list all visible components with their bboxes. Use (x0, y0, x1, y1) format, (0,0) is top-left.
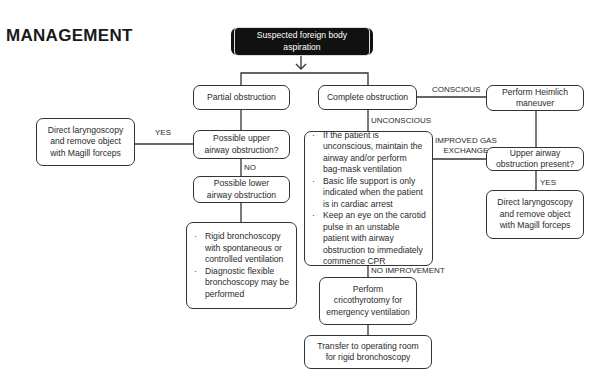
unconscious-item: Basic life support is only indicated whe… (323, 176, 426, 211)
lower-airway-node: Possible lowerairway obstruction (193, 176, 290, 203)
rigid-item: Diagnostic flexible bronchoscopy may be … (205, 266, 290, 301)
label-yes-right: YES (540, 178, 556, 188)
rigid-bronchoscopy-node: Rigid bronchoscopy with spontaneous or c… (186, 222, 297, 309)
unconscious-item: Keep an eye on the carotid pulse in an u… (323, 210, 426, 268)
cricothyrotomy-node: Performcricothyrotomy foremergency venti… (319, 277, 417, 325)
label-conscious: CONSCIOUS (432, 85, 480, 95)
unconscious-item: If the patient is unconscious, maintain … (323, 130, 426, 176)
start-node: Suspected foreign body aspiration (231, 28, 373, 55)
label-unconscious: UNCONSCIOUS (371, 116, 431, 126)
heimlich-node: Perform Heimlichmaneuver (486, 85, 584, 111)
complete-obstruction-node: Complete obstruction (318, 85, 417, 110)
rigid-item: Rigid bronchoscopy with spontaneous or c… (205, 231, 290, 266)
partial-obstruction-node: Partial obstruction (193, 85, 290, 110)
label-improved-gas-exchange: IMPROVED GAS EXCHANGE (435, 136, 497, 156)
label-no-improvement: NO IMPROVEMENT (371, 266, 445, 276)
transfer-node: Transfer to operating roomfor rigid bron… (304, 335, 432, 369)
label-yes-left: YES (155, 128, 171, 138)
unconscious-management-node: If the patient is unconscious, maintain … (304, 131, 433, 266)
upper-airway-question-node: Possible upperairway obstruction? (193, 130, 290, 159)
upper-airway-present-node: Upper airwayobstruction present? (486, 147, 584, 171)
label-no: NO (244, 163, 256, 173)
start-node-label: Suspected foreign body aspiration (234, 27, 370, 56)
direct-laryngoscopy-right-node: Direct laryngoscopyand remove objectwith… (486, 190, 584, 239)
direct-laryngoscopy-left-node: Direct laryngoscopyand remove objectwith… (36, 118, 135, 166)
